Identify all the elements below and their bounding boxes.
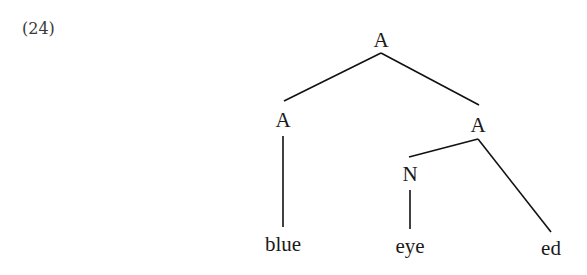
leaf-ed: ed [541,236,561,260]
syntax-tree: A A A N blue eye ed [0,0,587,275]
edge-right-noun [409,139,478,157]
edge-right-ed [478,139,551,232]
edge-root-right [381,53,479,105]
node-right: A [470,113,486,137]
node-noun: N [402,162,417,186]
node-left: A [275,108,291,132]
leaf-eye: eye [395,234,424,258]
leaf-blue: blue [265,232,301,256]
edge-root-left [284,53,381,101]
node-root: A [373,28,389,52]
